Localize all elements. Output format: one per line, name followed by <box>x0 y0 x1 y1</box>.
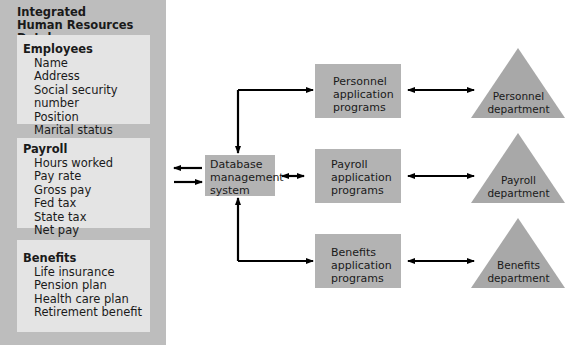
department-label: department <box>471 103 565 116</box>
program-label: programs <box>333 101 401 114</box>
dbms-label: management <box>210 171 275 184</box>
payroll-department-triangle: Payroll department <box>471 133 565 228</box>
dbms-label: Database <box>210 158 275 171</box>
benefits-department-triangle: Benefits department <box>471 218 565 313</box>
department-label: department <box>471 272 565 285</box>
program-label: Benefits <box>331 246 401 259</box>
program-label: programs <box>331 272 401 285</box>
program-label: application <box>331 259 401 272</box>
payroll-programs-box: Payroll application programs <box>315 149 401 203</box>
benefits-programs-box: Benefits application programs <box>315 234 401 288</box>
personnel-programs-box: Personnel application programs <box>315 64 401 118</box>
program-label: Personnel <box>333 75 401 88</box>
program-label: application <box>331 171 401 184</box>
department-label: department <box>471 187 565 200</box>
dbms-label: system <box>210 184 275 197</box>
department-label: Benefits <box>471 259 565 272</box>
program-label: application <box>333 88 401 101</box>
department-label: Personnel <box>471 90 565 103</box>
personnel-department-triangle: Personnel department <box>471 48 565 143</box>
dbms-box: Database management system <box>205 155 275 196</box>
program-label: programs <box>331 184 401 197</box>
department-label: Payroll <box>471 174 565 187</box>
program-label: Payroll <box>331 158 401 171</box>
